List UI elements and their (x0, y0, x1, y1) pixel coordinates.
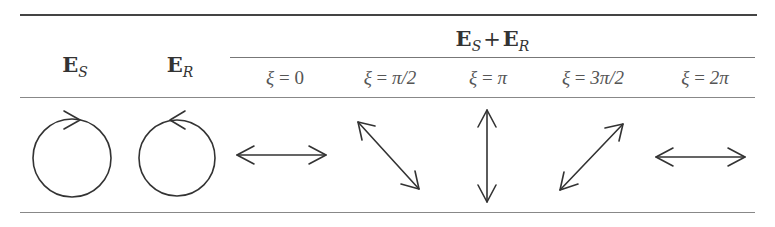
polarization-figures (0, 0, 775, 227)
diagonal-up-double-arrow-icon (560, 124, 623, 190)
horizontal-double-arrow-icon (237, 146, 326, 164)
diagonal-down-double-arrow-icon (358, 122, 419, 189)
circle-clockwise-icon (33, 111, 111, 197)
vertical-double-arrow-icon (478, 110, 496, 202)
horizontal-double-arrow-icon (656, 148, 745, 166)
circle-counterclockwise-icon (139, 111, 215, 196)
